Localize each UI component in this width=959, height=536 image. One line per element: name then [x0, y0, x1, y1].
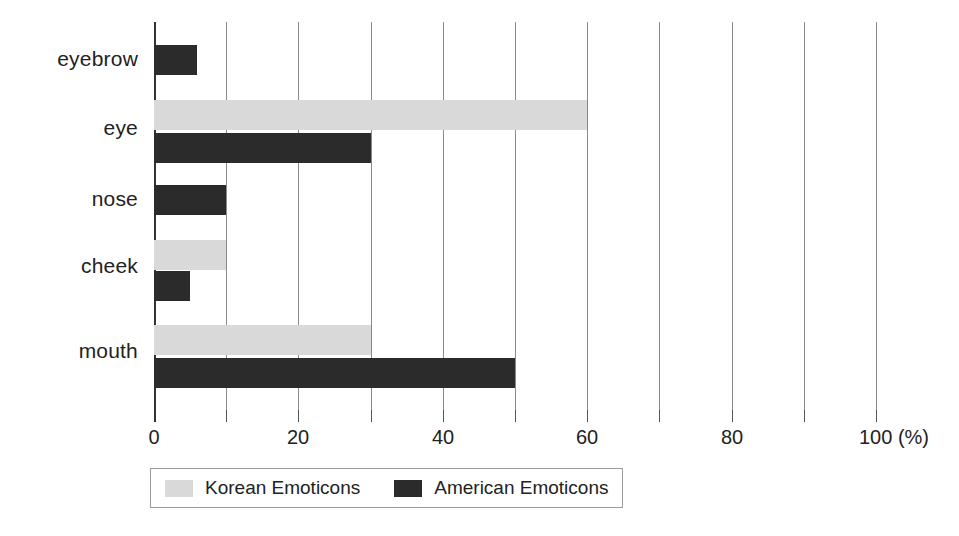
- legend-label-american: American Emoticons: [434, 477, 608, 499]
- plot-area: [154, 22, 876, 410]
- tick-70: [659, 410, 660, 422]
- bar-mouth-american: [154, 358, 515, 388]
- category-label-eyebrow: eyebrow: [0, 47, 138, 71]
- tick-label-0: 0: [148, 426, 159, 449]
- bar-chart: eyebrow eye nose cheek mouth: [0, 0, 959, 536]
- tick-60: [587, 410, 588, 422]
- tick-label-20: 20: [287, 426, 309, 449]
- gridline-80: [732, 22, 733, 410]
- tick-40: [443, 410, 444, 422]
- tick-0: [154, 410, 156, 422]
- bar-nose-american: [154, 185, 226, 215]
- bar-eyebrow-american: [154, 45, 197, 75]
- gridline-100: [876, 22, 877, 410]
- tick-label-100-percent: 100 (%): [859, 426, 929, 449]
- tick-80: [732, 410, 733, 422]
- legend-item-american: American Emoticons: [394, 477, 608, 499]
- gridline-30: [371, 22, 372, 410]
- legend-label-korean: Korean Emoticons: [205, 477, 360, 499]
- tick-10: [226, 410, 227, 422]
- category-axis-labels: eyebrow eye nose cheek mouth: [0, 0, 138, 536]
- tick-label-40: 40: [432, 426, 454, 449]
- gridline-50: [515, 22, 516, 410]
- legend-item-korean: Korean Emoticons: [165, 477, 360, 499]
- bar-eye-american: [154, 133, 371, 163]
- tick-20: [298, 410, 299, 422]
- tick-100: [876, 410, 877, 422]
- bar-mouth-korean: [154, 325, 371, 355]
- bar-cheek-american: [154, 271, 190, 301]
- tick-label-80: 80: [721, 426, 743, 449]
- gridline-60: [587, 22, 588, 410]
- gridline-90: [804, 22, 805, 410]
- x-axis: 0 20 40 60 80 100 (%): [154, 410, 876, 470]
- category-label-nose: nose: [0, 187, 138, 211]
- legend-swatch-icon-korean: [165, 480, 193, 497]
- category-label-eye: eye: [0, 116, 138, 140]
- category-label-mouth: mouth: [0, 339, 138, 363]
- tick-label-60: 60: [576, 426, 598, 449]
- bar-eye-korean: [154, 100, 587, 130]
- tick-30: [371, 410, 372, 422]
- legend-swatch-icon-american: [394, 480, 422, 497]
- legend: Korean Emoticons American Emoticons: [150, 468, 623, 508]
- gridline-40: [443, 22, 444, 410]
- category-label-cheek: cheek: [0, 254, 138, 278]
- gridline-70: [659, 22, 660, 410]
- tick-50: [515, 410, 516, 422]
- bar-cheek-korean: [154, 240, 226, 270]
- tick-90: [804, 410, 805, 422]
